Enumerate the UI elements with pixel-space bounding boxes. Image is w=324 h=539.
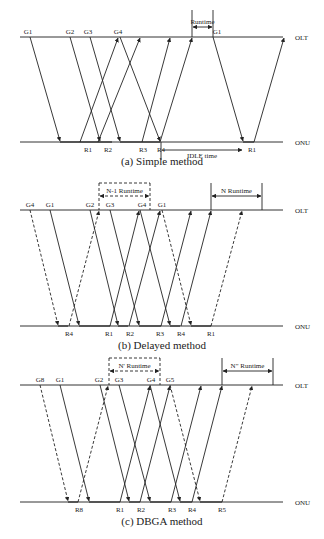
grant-label: G1 [46,201,55,209]
grant-message-arrow [170,385,200,501]
grant-message-arrow [30,37,60,141]
olt-label: OLT [295,207,309,215]
report-label: R8 [75,506,84,514]
report-label: R1 [116,506,125,514]
report-label: R3 [168,506,177,514]
panel-caption: (c) DBGA method [121,515,203,528]
report-message-arrow [98,38,140,142]
grant-label: G4 [147,376,156,384]
panel-c: OLTONUG8G1G2G3G4G5R8R1R2R3R4R5N' Runtime… [20,358,310,528]
report-label: R2 [104,146,113,154]
report-label: R4 [65,330,74,338]
grant-message-arrow [30,210,58,325]
onu-label: ONU [295,499,310,507]
report-label: R2 [137,506,146,514]
grant-label: G5 [166,376,175,384]
report-label: R4 [188,506,197,514]
grant-label: G4 [114,28,123,36]
panel-caption: (a) Simple method [121,155,203,168]
report-message-arrow [78,386,108,502]
report-label: R4 [177,330,186,338]
onu-label: ONU [295,139,310,147]
report-message-arrow [160,38,192,142]
grant-message-arrow [213,37,243,141]
report-label: R3 [156,330,165,338]
report-label: R1 [105,330,114,338]
runtime-label: N Runtime [221,187,252,195]
report-label: R3 [139,146,148,154]
grant-message-arrow [50,210,79,325]
report-label: R1 [248,146,257,154]
panel-caption: (b) Delayed method [118,339,206,352]
report-label: R2 [126,330,135,338]
grant-label: G8 [36,376,45,384]
grant-label: G2 [95,376,104,384]
grant-label: G3 [106,201,115,209]
grant-label: G2 [66,28,75,36]
grant-label: G2 [86,201,95,209]
report-message-arrow [69,211,99,326]
grant-message-arrow [90,210,118,325]
report-message-arrow [222,386,252,502]
grant-label: G1 [158,201,167,209]
onu-label: ONU [295,323,310,331]
report-message-arrow [181,211,211,326]
runtime-label: N-1 Runtime [106,187,143,195]
olt-label: OLT [295,34,309,42]
grant-label: G3 [84,28,93,36]
report-label: R5 [218,506,227,514]
grant-message-arrow [70,37,100,141]
runtime-label: Runtime [190,18,214,26]
report-message-arrow [211,211,242,326]
report-label: R1 [207,330,216,338]
grant-message-arrow [120,37,160,141]
report-message-arrow [142,38,170,142]
grant-label: G3 [115,376,124,384]
panel-a: OLTONUG1G2G3G4G1R1R2R3R4R1RuntimeIDLE ti… [20,10,310,168]
pon-polling-timing-diagram: OLTONUG1G2G3G4G1R1R2R3R4R1RuntimeIDLE ti… [0,0,324,539]
grant-label: G1 [24,28,33,36]
runtime-label: N' Runtime [118,362,150,370]
grant-label: G1 [213,28,222,36]
grant-message-arrow [40,385,68,501]
report-message-arrow [254,38,284,142]
olt-label: OLT [295,382,309,390]
runtime-label: N" Runtime [231,362,265,370]
grant-label: G4 [26,201,35,209]
grant-message-arrow [60,385,89,501]
panel-b: OLTONUG4G1G2G3G4G1R4R1R2R3R4R1N-1 Runtim… [20,183,310,352]
grant-label: G1 [56,376,65,384]
report-label: R1 [84,146,93,154]
grant-label: G4 [138,201,147,209]
